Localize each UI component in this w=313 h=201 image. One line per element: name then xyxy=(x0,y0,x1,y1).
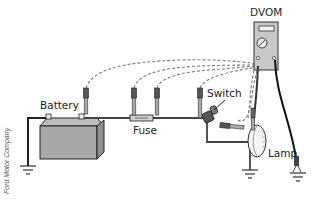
fuse: Fuse xyxy=(130,115,157,136)
probe-switch-output xyxy=(220,123,244,130)
battery-negative-terminal xyxy=(46,114,51,119)
ground-icon xyxy=(290,173,306,181)
dvom-meter: DVOM xyxy=(250,6,282,70)
probe-fuse-output xyxy=(155,88,160,115)
dvom-display xyxy=(259,26,274,31)
battery: Battery xyxy=(40,99,104,159)
probe-fuse-input xyxy=(132,88,137,115)
lamp-label: Lamp xyxy=(268,147,298,159)
dvom-com-jack xyxy=(256,56,259,59)
battery-positive-terminal xyxy=(79,114,84,119)
probe-battery-positive xyxy=(84,88,89,114)
ground-icon xyxy=(20,166,36,174)
dvom-volt-jack xyxy=(272,56,275,59)
switch: Switch xyxy=(201,87,241,124)
battery-label: Battery xyxy=(40,99,79,111)
probe-lamp-input xyxy=(251,108,255,130)
dvom-label: DVOM xyxy=(250,6,282,18)
fuse-label: Fuse xyxy=(133,124,157,136)
circuit-diagram: DVOM Battery Fuse xyxy=(0,0,313,201)
switch-label: Switch xyxy=(207,87,242,99)
ground-icon xyxy=(242,170,258,178)
image-credit: Ford Motor Company xyxy=(3,127,11,194)
probe-switch-input xyxy=(198,88,203,118)
